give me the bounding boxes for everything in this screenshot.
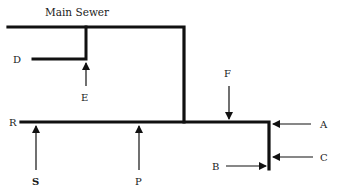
main-sewer-pipe xyxy=(8,27,184,122)
label-p: P xyxy=(135,176,142,187)
branch-d-pipe xyxy=(33,27,86,59)
label-f: F xyxy=(224,68,231,79)
label-d: D xyxy=(13,54,21,65)
label-e: E xyxy=(81,92,88,103)
label-c: C xyxy=(320,152,328,163)
label-b: B xyxy=(212,161,219,172)
label-s: S xyxy=(32,176,39,187)
main-sewer-label: Main Sewer xyxy=(45,6,110,18)
label-a: A xyxy=(319,119,328,130)
lower-pipe xyxy=(21,122,269,169)
label-r: R xyxy=(9,117,17,128)
sewer-diagram: Main Sewer D E F R S P A C B xyxy=(0,0,337,192)
